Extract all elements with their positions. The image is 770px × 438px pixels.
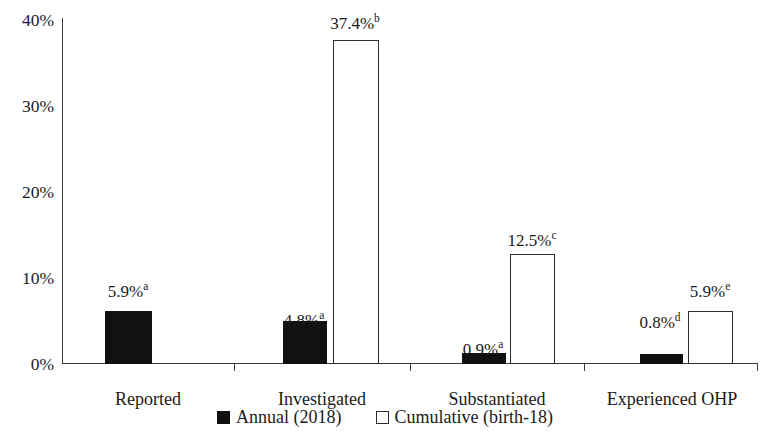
data-label-investigated-annual: 4.8%a bbox=[284, 312, 325, 329]
y-tick-label-30: 30% bbox=[0, 98, 54, 116]
x-category-label-reported: Reported bbox=[115, 390, 181, 408]
data-label-substantiated-cumulative: 12.5%c bbox=[507, 232, 556, 249]
data-label-superscript: c bbox=[551, 229, 556, 241]
filled-square-icon bbox=[217, 411, 230, 424]
plot-area: 5.9%a 4.8%a 37.4%b 0.9%a 12.5%c 0.8%d 5.… bbox=[62, 18, 758, 364]
x-axis-tick-2 bbox=[410, 364, 411, 371]
legend-label-annual: Annual (2018) bbox=[236, 408, 341, 426]
legend-label-cumulative: Cumulative (birth-18) bbox=[395, 408, 553, 426]
hollow-square-icon bbox=[376, 411, 389, 424]
data-label-investigated-cumulative: 37.4%b bbox=[330, 15, 380, 32]
data-label-superscript: d bbox=[675, 311, 681, 323]
x-axis-tick-3 bbox=[584, 364, 585, 371]
bar-experienced-ohp-annual bbox=[640, 354, 683, 364]
bar-substantiated-cumulative bbox=[510, 254, 555, 364]
legend-item-cumulative: Cumulative (birth-18) bbox=[376, 408, 553, 426]
data-label-superscript: a bbox=[143, 280, 148, 292]
y-tick-label-0: 0% bbox=[0, 356, 54, 374]
data-label-experienced-ohp-cumulative: 5.9%e bbox=[690, 283, 731, 300]
data-label-reported-annual: 5.9%a bbox=[108, 283, 149, 300]
data-label-experienced-ohp-annual: 0.8%d bbox=[639, 314, 680, 331]
data-label-superscript: a bbox=[498, 338, 503, 350]
data-label-value: 0.8% bbox=[639, 313, 674, 332]
x-category-label-substantiated: Substantiated bbox=[449, 390, 546, 408]
y-tick-label-10: 10% bbox=[0, 270, 54, 288]
y-axis-line bbox=[62, 18, 63, 364]
data-label-substantiated-annual: 0.9%a bbox=[463, 341, 504, 358]
bar-experienced-ohp-cumulative bbox=[688, 311, 733, 364]
data-label-value: 5.9% bbox=[108, 282, 143, 301]
x-category-label-investigated: Investigated bbox=[278, 390, 366, 408]
bar-reported-annual bbox=[105, 311, 152, 364]
y-tick-label-40: 40% bbox=[0, 12, 54, 30]
x-category-label-experienced-ohp: Experienced OHP bbox=[607, 390, 737, 408]
chart-legend: Annual (2018) Cumulative (birth-18) bbox=[0, 408, 770, 426]
data-label-value: 37.4% bbox=[330, 14, 374, 33]
data-label-superscript: a bbox=[319, 309, 324, 321]
legend-item-annual: Annual (2018) bbox=[217, 408, 341, 426]
data-label-superscript: e bbox=[725, 280, 730, 292]
y-tick-label-20: 20% bbox=[0, 184, 54, 202]
y-axis-tick-labels: 40% 30% 20% 10% 0% bbox=[0, 0, 56, 438]
x-axis-tick-1 bbox=[234, 364, 235, 371]
x-axis-tick-4 bbox=[757, 364, 758, 371]
data-label-value: 5.9% bbox=[690, 282, 725, 301]
data-label-value: 12.5% bbox=[507, 231, 551, 250]
data-label-value: 4.8% bbox=[284, 311, 319, 330]
data-label-superscript: b bbox=[374, 12, 380, 24]
bar-chart-figure: 40% 30% 20% 10% 0% 5.9%a 4.8%a 37.4%b 0. bbox=[0, 0, 770, 438]
bar-investigated-cumulative bbox=[333, 40, 379, 364]
data-label-value: 0.9% bbox=[463, 340, 498, 359]
